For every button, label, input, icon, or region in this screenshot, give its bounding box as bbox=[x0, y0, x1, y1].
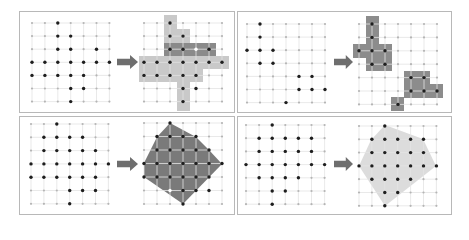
grid-node bbox=[324, 150, 326, 152]
grid-node bbox=[397, 125, 399, 127]
output-point bbox=[181, 48, 184, 51]
grid-node bbox=[397, 23, 399, 25]
shaded-cell-region bbox=[177, 82, 190, 111]
input-point bbox=[68, 189, 71, 192]
grid-node bbox=[221, 203, 223, 205]
input-point bbox=[94, 149, 97, 152]
input-point bbox=[310, 150, 313, 153]
grid-node bbox=[31, 48, 33, 50]
grid-node bbox=[31, 35, 33, 37]
input-point bbox=[55, 136, 58, 139]
output-point bbox=[370, 36, 373, 39]
grid-node bbox=[30, 203, 32, 205]
grid-node bbox=[31, 22, 33, 24]
grid-node bbox=[221, 189, 223, 191]
output-point bbox=[357, 49, 360, 52]
input-point bbox=[55, 122, 58, 125]
input-point bbox=[284, 189, 287, 192]
output-point bbox=[168, 48, 171, 51]
input-point bbox=[56, 61, 59, 64]
output-point bbox=[396, 151, 399, 154]
input-point bbox=[69, 48, 72, 51]
grid-node bbox=[310, 124, 312, 126]
output-point bbox=[370, 62, 373, 65]
grid-node bbox=[143, 189, 145, 191]
grid-node bbox=[423, 103, 425, 105]
input-point bbox=[310, 163, 313, 166]
grid-node bbox=[310, 203, 312, 205]
input-point bbox=[29, 162, 32, 165]
grid-node bbox=[358, 125, 360, 127]
grid-node bbox=[82, 203, 84, 205]
output-point bbox=[422, 151, 425, 154]
output-point bbox=[370, 49, 373, 52]
output-point bbox=[168, 175, 171, 178]
input-point bbox=[297, 163, 300, 166]
grid-node bbox=[69, 123, 71, 125]
grid-node bbox=[208, 22, 210, 24]
grid-node bbox=[285, 49, 287, 51]
grid-node bbox=[44, 48, 46, 50]
grid-node bbox=[245, 150, 247, 152]
grid-node bbox=[169, 87, 171, 89]
grid-node bbox=[423, 23, 425, 25]
grid-node bbox=[107, 123, 109, 125]
output-point bbox=[155, 135, 158, 138]
input-point bbox=[257, 176, 260, 179]
grid-node bbox=[410, 191, 412, 193]
grid-node bbox=[358, 191, 360, 193]
grid-node bbox=[298, 36, 300, 38]
grid-node bbox=[107, 176, 109, 178]
grid-node bbox=[107, 189, 109, 191]
grid-node bbox=[259, 102, 261, 104]
grid-node bbox=[56, 189, 58, 191]
grid-node bbox=[156, 189, 158, 191]
input-point bbox=[297, 150, 300, 153]
grid-node bbox=[272, 36, 274, 38]
grid-node bbox=[108, 22, 110, 24]
grid-node bbox=[435, 191, 437, 193]
grid-node bbox=[95, 87, 97, 89]
input-point bbox=[81, 136, 84, 139]
output-point bbox=[142, 162, 145, 165]
output-point bbox=[155, 162, 158, 165]
input-point bbox=[69, 61, 72, 64]
input-point bbox=[271, 62, 274, 65]
grid-node bbox=[221, 149, 223, 151]
grid-node bbox=[298, 62, 300, 64]
input-point bbox=[310, 88, 313, 91]
output-point bbox=[194, 87, 197, 90]
grid-node bbox=[297, 124, 299, 126]
output-point bbox=[409, 89, 412, 92]
output-point bbox=[383, 191, 386, 194]
grid-node bbox=[156, 87, 158, 89]
grid-node bbox=[143, 35, 145, 37]
input-point bbox=[297, 137, 300, 140]
highlighted-point bbox=[194, 48, 197, 51]
grid-node bbox=[70, 22, 72, 24]
input-point bbox=[68, 162, 71, 165]
output-point bbox=[155, 148, 158, 151]
shaded-cell-region bbox=[404, 71, 430, 98]
output-point bbox=[207, 148, 210, 151]
input-point bbox=[271, 189, 274, 192]
grid-node bbox=[397, 63, 399, 65]
grid-node bbox=[221, 176, 223, 178]
grid-node bbox=[436, 103, 438, 105]
grid-node bbox=[94, 123, 96, 125]
output-point bbox=[207, 61, 210, 64]
grid-node bbox=[95, 74, 97, 76]
output-point bbox=[409, 164, 412, 167]
input-point bbox=[68, 136, 71, 139]
input-point bbox=[271, 150, 274, 153]
output-point bbox=[194, 162, 197, 165]
grid-node bbox=[358, 152, 360, 154]
input-point bbox=[257, 137, 260, 140]
input-point bbox=[258, 22, 261, 25]
grid-node bbox=[143, 149, 145, 151]
output-point bbox=[181, 74, 184, 77]
output-point bbox=[383, 138, 386, 141]
grid-node bbox=[57, 101, 59, 103]
grid-node bbox=[245, 137, 247, 139]
grid-node bbox=[82, 123, 84, 125]
